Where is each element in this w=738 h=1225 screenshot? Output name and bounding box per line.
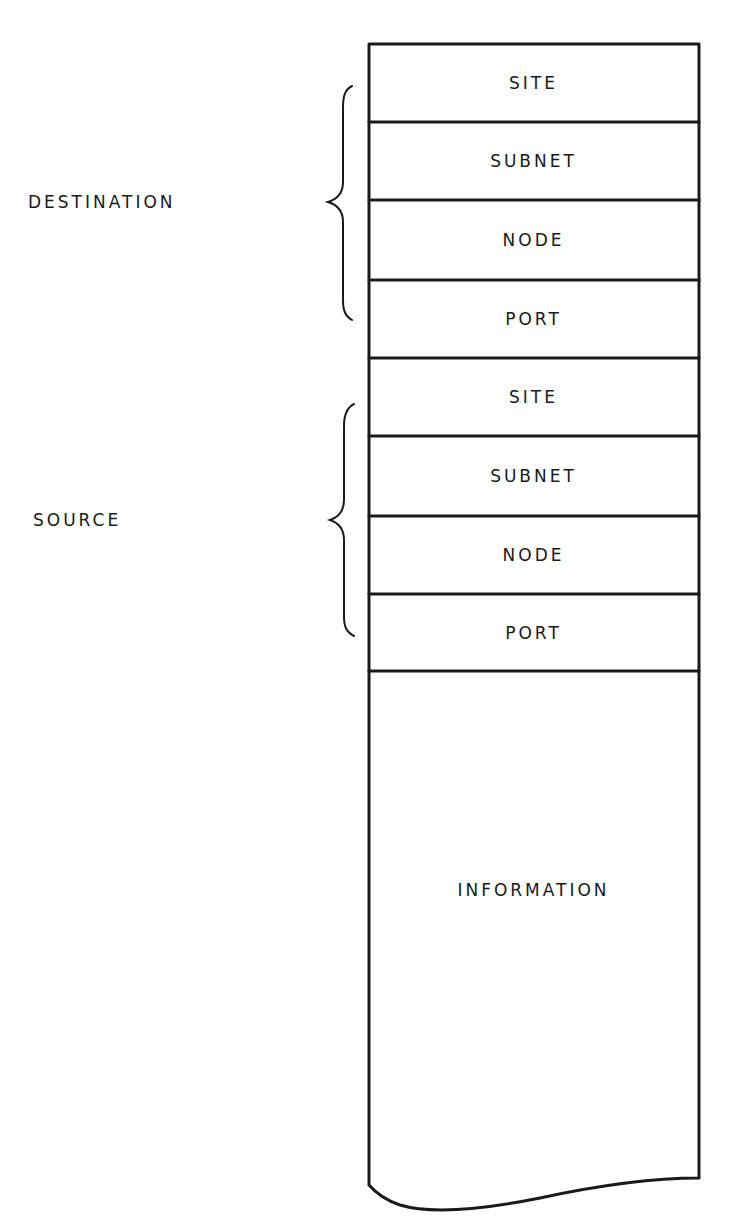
source-label: SOURCE (33, 510, 121, 530)
field-destination-site: SITE (368, 44, 699, 122)
field-source-node: NODE (368, 516, 699, 594)
packet-format-diagram: DESTINATION SOURCE SITE SUBNET NODE PORT… (0, 0, 738, 1225)
field-source-subnet: SUBNET (368, 436, 699, 516)
field-destination-port: PORT (368, 280, 699, 358)
field-source-port: PORT (368, 594, 699, 671)
field-destination-node: NODE (368, 200, 699, 280)
field-information: INFORMATION (368, 860, 699, 920)
field-destination-subnet: SUBNET (368, 122, 699, 200)
source-brace-icon (330, 404, 354, 636)
field-source-site: SITE (368, 358, 699, 436)
destination-label: DESTINATION (28, 192, 176, 212)
destination-brace-icon (328, 86, 352, 320)
